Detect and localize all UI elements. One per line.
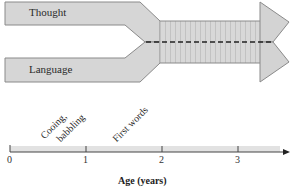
tick-1: 1 [83, 154, 88, 165]
language-arrowhead [260, 42, 289, 82]
timeline-bar [10, 146, 280, 152]
tick-0: 0 [7, 154, 12, 165]
diagram-graphic [0, 0, 299, 192]
tick-2: 2 [159, 154, 164, 165]
language-band [5, 42, 160, 82]
axis-arrow-icon [283, 149, 290, 155]
thought-label: Thought [29, 6, 66, 18]
thought-arrowhead [260, 2, 289, 42]
axis-title: Age (years) [118, 175, 167, 186]
language-label: Language [29, 63, 72, 75]
thought-language-diagram: Thought Language Cooing, babbling First … [0, 0, 299, 192]
tick-3: 3 [235, 154, 240, 165]
